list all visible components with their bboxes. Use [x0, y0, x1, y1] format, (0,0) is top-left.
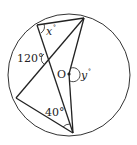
label-center-o: O: [57, 68, 66, 81]
circle-diagram: x ° 120° O y ° 40°: [0, 0, 137, 145]
label-angle-x-degree: °: [53, 23, 56, 30]
angle-arc-y: [70, 68, 80, 82]
label-angle-40: 40°: [45, 106, 65, 119]
label-angle-y: y: [80, 69, 88, 82]
label-angle-y-degree: °: [88, 67, 91, 74]
label-angle-120: 120°: [17, 52, 44, 65]
angle-arc-x: [41, 24, 44, 33]
label-angle-x: x: [46, 25, 53, 38]
center-point: [67, 72, 70, 75]
angle-arc-40: [63, 124, 70, 127]
